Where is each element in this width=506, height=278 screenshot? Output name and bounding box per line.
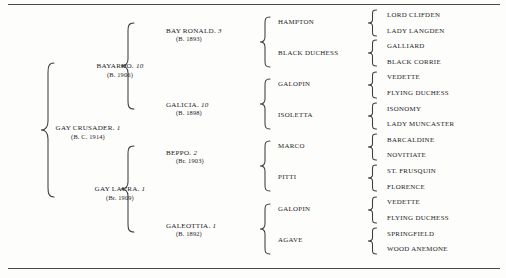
- node-hampton[interactable]: HAMPTON: [278, 18, 314, 26]
- node-rank: 1: [142, 185, 146, 193]
- node-isoletta[interactable]: ISOLETTA: [278, 111, 313, 119]
- node-beppo[interactable]: BEPPO. 2 (Br. 1903): [166, 149, 204, 165]
- node-galopin-upper[interactable]: GALOPIN: [278, 80, 310, 88]
- node-florence[interactable]: FLORENCE: [387, 183, 425, 191]
- node-year: (B. C. 1914): [56, 133, 121, 141]
- node-bay-ronald[interactable]: BAY RONALD. 3 (B. 1893): [166, 27, 222, 43]
- brace-gay-crusader: [40, 62, 56, 198]
- node-name: GAY LAURA. 1: [95, 185, 146, 193]
- brace-agave: [367, 227, 378, 255]
- node-name: WOOD ANEMONE: [387, 245, 448, 253]
- node-year: (B. 1893): [166, 35, 222, 43]
- node-name: GALLIARD: [387, 42, 425, 50]
- node-name: FLORENCE: [387, 183, 425, 191]
- node-year: (B. 1898): [166, 109, 209, 117]
- bottom-rule: [8, 268, 500, 269]
- node-gay-crusader[interactable]: GAY CRUSADER. 1 (B. C. 1914): [56, 124, 121, 140]
- node-name: BLACK DUCHESS: [278, 49, 338, 57]
- node-name: BARCALDINE: [387, 136, 434, 144]
- brace-beppo: [259, 140, 272, 192]
- node-year: (Br. 1909): [95, 194, 146, 202]
- node-name: VEDETTE: [387, 73, 420, 81]
- brace-galopin-upper: [367, 71, 378, 99]
- node-lady-langden[interactable]: LADY LANGDEN: [387, 27, 445, 35]
- brace-pitti: [367, 164, 378, 192]
- node-name: GALEOTTIA. 1: [166, 222, 216, 230]
- node-springfield[interactable]: SPRINGFIELD: [387, 230, 434, 238]
- node-name: MARCO: [278, 142, 305, 150]
- brace-hampton: [367, 9, 378, 37]
- node-rank: 2: [193, 149, 197, 157]
- brace-black-duchess: [367, 39, 378, 67]
- node-galliard[interactable]: GALLIARD: [387, 42, 425, 50]
- node-name: GAY CRUSADER. 1: [56, 124, 121, 132]
- node-name: GALOPIN: [278, 80, 310, 88]
- node-name: NOVITIATE: [387, 151, 426, 159]
- node-name: BAYARDO. 10: [96, 62, 143, 70]
- node-name: ISONOMY: [387, 105, 421, 113]
- brace-bay-ronald: [259, 16, 272, 68]
- node-rank: 3: [218, 27, 222, 35]
- node-galicia[interactable]: GALICIA. 10 (B. 1898): [166, 101, 209, 117]
- node-name: LADY MUNCASTER: [387, 120, 454, 128]
- node-galopin-lower[interactable]: GALOPIN: [278, 205, 310, 213]
- node-name: ST. FRUSQUIN: [387, 167, 436, 175]
- node-rank: 1: [213, 222, 217, 230]
- node-name: ISOLETTA: [278, 111, 313, 119]
- node-marco[interactable]: MARCO: [278, 142, 305, 150]
- node-novitiate[interactable]: NOVITIATE: [387, 151, 426, 159]
- brace-marco: [367, 133, 378, 161]
- node-wood-anemone[interactable]: WOOD ANEMONE: [387, 245, 448, 253]
- top-rule: [8, 4, 500, 5]
- node-vedette-lower[interactable]: VEDETTE: [387, 198, 420, 206]
- node-name: BEPPO. 2: [166, 149, 204, 157]
- node-name: LADY LANGDEN: [387, 27, 445, 35]
- node-name: LORD CLIFDEN: [387, 11, 440, 19]
- node-name: GALICIA. 10: [166, 101, 209, 109]
- node-name: GALOPIN: [278, 205, 310, 213]
- brace-galicia: [259, 78, 272, 130]
- node-name: FLYING DUCHESS: [387, 214, 449, 222]
- node-name: SPRINGFIELD: [387, 230, 434, 238]
- brace-isoletta: [367, 102, 378, 130]
- node-agave[interactable]: AGAVE: [278, 236, 303, 244]
- node-name: AGAVE: [278, 236, 303, 244]
- node-rank: 1: [117, 124, 121, 132]
- brace-galopin-lower: [367, 196, 378, 224]
- node-black-corrie[interactable]: BLACK CORRIE: [387, 58, 441, 66]
- node-flying-duchess-upper[interactable]: FLYING DUCHESS: [387, 89, 449, 97]
- node-name: HAMPTON: [278, 18, 314, 26]
- node-name: FLYING DUCHESS: [387, 89, 449, 97]
- node-gay-laura[interactable]: GAY LAURA. 1 (Br. 1909): [95, 185, 146, 201]
- node-lady-muncaster[interactable]: LADY MUNCASTER: [387, 120, 454, 128]
- node-pitti[interactable]: PITTI: [278, 173, 296, 181]
- node-lord-clifden[interactable]: LORD CLIFDEN: [387, 11, 440, 19]
- node-flying-duchess-lower[interactable]: FLYING DUCHESS: [387, 214, 449, 222]
- node-vedette-upper[interactable]: VEDETTE: [387, 73, 420, 81]
- node-black-duchess[interactable]: BLACK DUCHESS: [278, 49, 338, 57]
- node-name: VEDETTE: [387, 198, 420, 206]
- node-year: (B. 1906): [96, 71, 143, 79]
- node-st-frusquin[interactable]: ST. FRUSQUIN: [387, 167, 436, 175]
- node-name: PITTI: [278, 173, 296, 181]
- node-rank: 10: [136, 62, 144, 70]
- node-year: (Br. 1903): [166, 157, 204, 165]
- node-year: (B. 1892): [166, 230, 216, 238]
- node-name: BAY RONALD. 3: [166, 27, 222, 35]
- brace-galeottia: [259, 203, 272, 255]
- pedigree-chart: GAY CRUSADER. 1 (B. C. 1914) BAYARDO. 10…: [0, 0, 506, 278]
- node-galeottia[interactable]: GALEOTTIA. 1 (B. 1892): [166, 222, 216, 238]
- node-name: BLACK CORRIE: [387, 58, 441, 66]
- node-barcaldine[interactable]: BARCALDINE: [387, 136, 434, 144]
- node-isonomy[interactable]: ISONOMY: [387, 105, 421, 113]
- node-bayardo[interactable]: BAYARDO. 10 (B. 1906): [96, 62, 143, 78]
- node-rank: 10: [201, 101, 209, 109]
